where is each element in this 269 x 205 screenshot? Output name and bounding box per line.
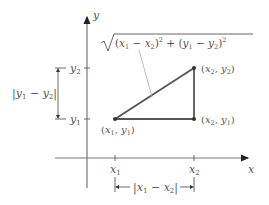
x-axis: x bbox=[55, 158, 255, 176]
horizontal-distance-label: |x1 − x2| bbox=[133, 181, 178, 195]
x1-tick-label: x1 bbox=[110, 163, 121, 177]
point-label-x1-y1: (x1, y1) bbox=[101, 124, 135, 137]
y-axis: y bbox=[87, 9, 100, 188]
right-triangle bbox=[113, 66, 196, 121]
point-label-x2-y2: (x2, y2) bbox=[201, 63, 235, 76]
formula-text: (x1 − x2)2 + (y1 − y2)2 bbox=[115, 36, 226, 51]
point-x2-y1 bbox=[192, 117, 196, 121]
y-axis-label: y bbox=[92, 9, 100, 22]
x2-tick-label: x2 bbox=[189, 163, 200, 177]
point-label-x2-y1: (x2, y1) bbox=[201, 114, 235, 127]
distance-formula-diagram: y x y2 y1 x1 x2 |y1 − y2| bbox=[0, 0, 269, 205]
y1-tick-label: y1 bbox=[69, 113, 81, 127]
point-x2-y2 bbox=[192, 66, 196, 70]
vertical-distance-bracket: |y1 − y2| bbox=[12, 68, 66, 119]
point-x1-y1 bbox=[113, 117, 117, 121]
formula-leader-line bbox=[139, 50, 152, 97]
vertical-distance-label: |y1 − y2| bbox=[12, 87, 57, 101]
y2-tick-label: y2 bbox=[69, 62, 81, 76]
x-axis-label: x bbox=[248, 163, 255, 176]
hypotenuse bbox=[115, 68, 194, 119]
horizontal-distance-bracket: |x1 − x2| bbox=[115, 177, 194, 195]
